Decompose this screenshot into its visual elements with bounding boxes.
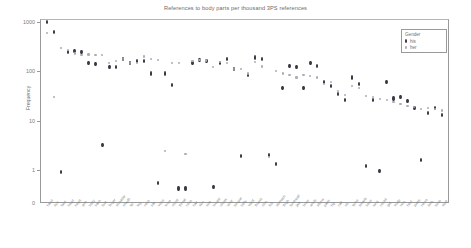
data-point-her xyxy=(74,52,76,54)
data-point-her xyxy=(386,99,388,101)
data-point-his xyxy=(378,169,380,173)
y-tick-label: 0 xyxy=(9,200,35,206)
data-point-his xyxy=(365,164,367,168)
data-point-his xyxy=(399,95,401,99)
data-point-his xyxy=(309,61,311,65)
data-point-her xyxy=(392,101,394,103)
data-point-his xyxy=(212,185,214,189)
data-point-his xyxy=(372,98,374,102)
data-point-his xyxy=(302,86,304,90)
legend-title: Gender xyxy=(405,32,443,37)
data-point-his xyxy=(60,170,62,174)
data-point-her xyxy=(365,95,367,97)
legend-label-his: his xyxy=(410,39,416,44)
data-point-her xyxy=(399,103,401,105)
data-point-his xyxy=(288,64,290,68)
data-point-her xyxy=(288,74,290,76)
y-tick-mark xyxy=(37,22,40,23)
data-point-her xyxy=(226,62,228,64)
data-point-her xyxy=(46,32,48,34)
data-point-her xyxy=(157,59,159,61)
data-point-her xyxy=(150,58,152,60)
data-point-her xyxy=(80,54,82,56)
data-point-her xyxy=(143,55,145,57)
y-tick-mark xyxy=(37,170,40,171)
legend-label-her: her xyxy=(410,45,417,50)
data-point-his xyxy=(157,181,159,185)
data-point-her xyxy=(254,61,256,63)
plot-area xyxy=(40,19,449,203)
data-point-her xyxy=(406,105,408,107)
y-tick-label: 1000 xyxy=(9,19,35,25)
x-tick-label: ear xyxy=(150,201,156,208)
x-tick-label: hip xyxy=(330,201,336,207)
y-tick-mark xyxy=(37,121,40,122)
data-point-her xyxy=(184,153,186,155)
legend-item-his[interactable]: his xyxy=(405,39,443,44)
legend-item-her[interactable]: her xyxy=(405,45,443,50)
data-point-her xyxy=(372,96,374,98)
data-point-his xyxy=(150,71,152,75)
chart-root: References to body parts per thousand 3P… xyxy=(0,0,471,248)
x-tick-label: leg xyxy=(136,201,142,207)
her-marker-icon xyxy=(405,46,407,48)
data-point-his xyxy=(184,186,186,190)
data-point-her xyxy=(171,62,173,64)
data-point-his xyxy=(94,62,96,66)
data-point-her xyxy=(282,72,284,74)
x-tick-label: fist xyxy=(268,201,274,207)
data-point-her xyxy=(198,59,200,61)
data-point-his xyxy=(351,75,353,79)
data-point-her xyxy=(302,74,304,76)
data-point-his xyxy=(164,71,166,75)
his-marker-icon xyxy=(405,39,407,43)
data-point-her xyxy=(295,76,297,78)
data-point-her xyxy=(67,49,69,51)
data-point-her xyxy=(94,54,96,56)
data-point-his xyxy=(406,99,408,103)
data-point-her xyxy=(261,65,263,67)
data-point-his xyxy=(385,80,387,84)
data-point-his xyxy=(254,55,256,59)
data-point-her xyxy=(60,47,62,49)
x-tick-label: rib xyxy=(344,202,350,208)
y-tick-label: 100 xyxy=(9,68,35,74)
y-tick-label: 10 xyxy=(9,118,35,124)
data-point-her xyxy=(178,62,180,64)
data-point-his xyxy=(87,61,89,65)
data-point-his xyxy=(101,143,103,147)
data-point-her xyxy=(247,72,249,74)
data-point-her xyxy=(129,62,131,64)
x-tick-label: nail xyxy=(337,201,344,208)
data-point-his xyxy=(108,65,110,69)
y-tick-mark xyxy=(37,71,40,72)
chart-title: References to body parts per thousand 3P… xyxy=(0,5,471,11)
y-tick-label: 1 xyxy=(9,167,35,173)
data-point-her xyxy=(87,53,89,55)
legend: Gender his her xyxy=(401,29,447,53)
data-point-her xyxy=(441,109,443,111)
data-point-his xyxy=(177,186,179,190)
